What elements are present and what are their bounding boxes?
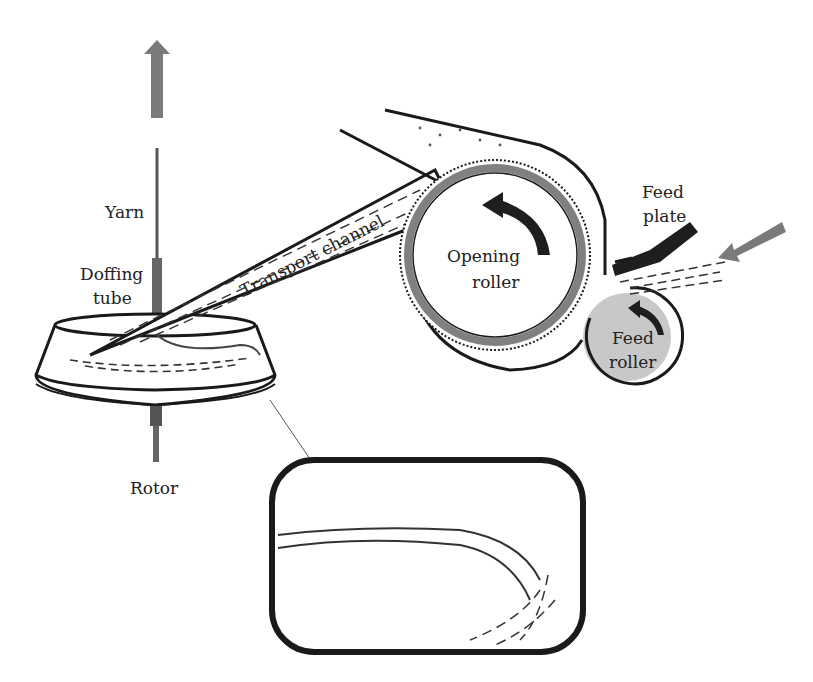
label-yarn: Yarn: [104, 202, 144, 222]
yarn-in-rotor: [157, 335, 260, 355]
rotor-spinning-diagram: Yarn Doffing tube Rotor Transport channe…: [0, 0, 813, 682]
magnified-inset: [272, 460, 583, 652]
transport-channel: [90, 170, 440, 355]
label-doffing-tube-1: Doffing: [80, 264, 143, 284]
label-feed-roller-2: roller: [609, 352, 657, 372]
label-rotor: Rotor: [130, 478, 179, 498]
label-feed-roller-1: Feed: [612, 328, 654, 348]
label-feed-plate-2: plate: [643, 206, 686, 226]
doffing-tube: [152, 258, 162, 318]
label-doffing-tube-2: tube: [93, 288, 132, 308]
zoom-pointer-line: [270, 400, 312, 462]
label-transport-channel: Transport channel: [237, 211, 388, 301]
label-opening-roller-2: roller: [472, 272, 520, 292]
rotor-shaft: [150, 406, 162, 426]
yarn-output-arrow: [144, 40, 170, 118]
feed-plate: [612, 222, 698, 276]
sliver-input-arrow: [718, 222, 786, 262]
label-feed-plate-1: Feed: [642, 182, 684, 202]
rotor-fibre-ring: [70, 358, 250, 372]
label-opening-roller-1: Opening: [447, 246, 520, 266]
housing-fibres: [419, 127, 502, 147]
